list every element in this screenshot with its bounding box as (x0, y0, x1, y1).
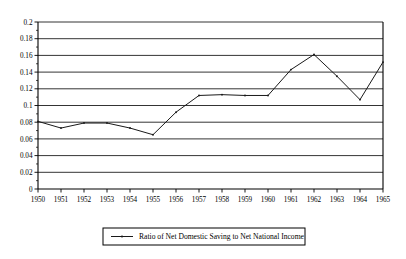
data-point-marker (152, 134, 154, 136)
y-tick-label: 0.2 (24, 19, 33, 27)
x-tick-label: 1965 (376, 196, 391, 204)
data-point-marker (60, 127, 62, 129)
x-tick-label: 1950 (31, 196, 46, 204)
x-tick-label: 1960 (261, 196, 276, 204)
data-point-marker (359, 99, 361, 101)
series-line (38, 55, 383, 135)
y-tick-label: 0.16 (20, 52, 33, 60)
data-point-marker (175, 111, 177, 113)
y-tick-label: 0.02 (20, 169, 33, 177)
data-point-marker (382, 61, 384, 63)
data-point-marker (244, 95, 246, 97)
chart-canvas: 00.020.040.060.080.10.120.140.160.180.2 … (0, 0, 406, 259)
x-tick-label: 1963 (330, 196, 345, 204)
x-tick-label: 1953 (100, 196, 115, 204)
data-point-marker (83, 122, 85, 124)
x-tick-label: 1957 (192, 196, 207, 204)
chart-legend: Ratio of Net Domestic Saving to Net Nati… (103, 228, 305, 245)
x-tick-label: 1964 (353, 196, 368, 204)
y-tick-label: 0.06 (20, 136, 33, 144)
data-series-layer (37, 54, 384, 136)
data-point-marker (290, 69, 292, 71)
x-tick-label: 1962 (307, 196, 322, 204)
x-tick-label: 1954 (123, 196, 138, 204)
y-tick-label: 0.12 (20, 85, 33, 93)
data-point-marker (198, 95, 200, 97)
data-point-marker (221, 94, 223, 96)
data-point-marker (313, 54, 315, 56)
x-tick-label: 1956 (169, 196, 184, 204)
data-point-marker (336, 75, 338, 77)
data-point-marker (37, 120, 39, 122)
x-tick-label: 1958 (215, 196, 230, 204)
x-tick-label: 1959 (238, 196, 253, 204)
x-axis-ticks: 1950195119521953195419551956195719581959… (31, 189, 391, 204)
data-point-marker (106, 122, 108, 124)
gridlines-group (38, 22, 383, 172)
data-point-marker (129, 127, 131, 129)
y-axis-ticks: 00.020.040.060.080.10.120.140.160.180.2 (20, 19, 38, 194)
y-tick-label: 0.14 (20, 69, 33, 77)
legend-entry-label: Ratio of Net Domestic Saving to Net Nati… (139, 232, 305, 241)
data-point-marker (267, 95, 269, 97)
y-tick-label: 0 (29, 186, 33, 194)
x-tick-label: 1955 (146, 196, 161, 204)
y-tick-label: 0.1 (24, 102, 33, 110)
x-tick-label: 1951 (54, 196, 69, 204)
y-tick-label: 0.08 (20, 119, 33, 127)
y-tick-label: 0.18 (20, 35, 33, 43)
y-tick-label: 0.04 (20, 152, 33, 160)
x-tick-label: 1961 (284, 196, 299, 204)
legend-marker-dot (121, 235, 123, 237)
line-chart: 00.020.040.060.080.10.120.140.160.180.2 … (0, 0, 406, 259)
x-tick-label: 1952 (77, 196, 92, 204)
